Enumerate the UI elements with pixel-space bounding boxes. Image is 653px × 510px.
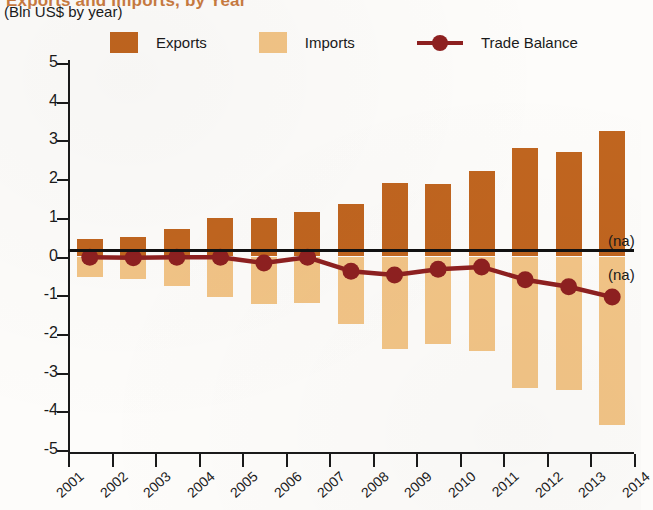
x-axis-tick-label: 2012: [521, 468, 566, 510]
zero-baseline: [68, 249, 634, 252]
x-axis-tick-label: 2008: [347, 468, 392, 510]
exports-swatch-icon: [110, 32, 138, 53]
y-axis-tick-label: 5: [18, 54, 58, 70]
y-axis-tick: [57, 257, 68, 259]
x-axis-tick-label: 2010: [434, 468, 479, 510]
trade-balance-line-icon: [417, 35, 463, 51]
y-axis-tick: [57, 411, 68, 413]
legend-item-trade-balance: Trade Balance: [417, 34, 578, 51]
y-axis-tick-label: 0: [18, 248, 58, 264]
plot-area: [68, 63, 634, 450]
trade-balance-marker: [386, 267, 403, 284]
y-axis-tick-label: 1: [18, 209, 58, 225]
x-axis-tick-label: 2002: [85, 468, 130, 510]
legend-item-exports: Exports: [110, 32, 207, 53]
x-axis-tick-label: 2014: [608, 468, 653, 510]
y-axis-tick: [57, 102, 68, 104]
na-annotation-upper: (na): [608, 232, 635, 249]
y-axis-tick: [57, 63, 68, 65]
chart-legend: Exports Imports Trade Balance: [110, 32, 578, 53]
legend-label-trade-balance: Trade Balance: [481, 34, 578, 51]
y-axis-tick: [57, 179, 68, 181]
y-axis-tick-label: -4: [18, 402, 58, 418]
na-annotation-lower: (na): [608, 266, 635, 283]
trade-balance-marker: [430, 261, 447, 278]
x-axis-tick-label: 2007: [303, 468, 348, 510]
y-axis-tick-label: 2: [18, 170, 58, 186]
x-axis-tick-label: 2009: [390, 468, 435, 510]
trade-balance-marker: [343, 263, 360, 280]
imports-swatch-icon: [259, 32, 287, 53]
y-axis-tick-label: 4: [18, 93, 58, 109]
x-axis-tick-label: 2005: [216, 468, 261, 510]
trade-balance-marker: [604, 289, 621, 306]
legend-label-exports: Exports: [156, 34, 207, 51]
y-axis-tick-label: -1: [18, 286, 58, 302]
x-axis-tick-label: 2011: [477, 468, 522, 510]
trade-balance-line: [68, 63, 634, 450]
chart-subtitle: (Bln US$ by year): [4, 3, 122, 20]
y-axis-labels: 543210-1-2-3-4-5: [14, 63, 58, 450]
y-axis-tick: [57, 295, 68, 297]
trade-balance-marker: [560, 278, 577, 295]
y-axis-tick-label: -3: [18, 364, 58, 380]
y-axis-tick-label: -2: [18, 325, 58, 341]
y-axis-tick: [57, 140, 68, 142]
y-axis-tick-label: -5: [18, 441, 58, 457]
x-axis-tick-label: 2006: [260, 468, 305, 510]
y-axis-tick: [57, 334, 68, 336]
legend-item-imports: Imports: [259, 32, 355, 53]
x-axis-tick-label: 2004: [172, 468, 217, 510]
x-axis-tick-label: 2001: [42, 468, 87, 510]
y-axis-tick: [57, 218, 68, 220]
trade-balance-marker: [255, 255, 272, 272]
x-axis-labels: 2001200220032004200520062007200820092010…: [0, 466, 641, 510]
y-axis-tick-label: 3: [18, 131, 58, 147]
trade-balance-marker: [517, 271, 534, 288]
x-axis-tick-label: 2013: [564, 468, 609, 510]
y-axis-tick: [57, 373, 68, 375]
x-axis-tick-label: 2003: [129, 468, 174, 510]
legend-label-imports: Imports: [305, 34, 355, 51]
y-axis-tick: [57, 450, 68, 452]
trade-balance-marker: [473, 258, 490, 275]
